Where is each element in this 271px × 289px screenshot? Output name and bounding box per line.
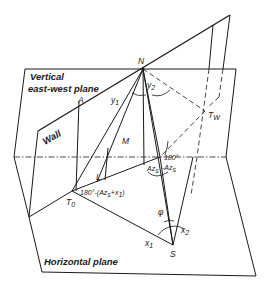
label-wall: Wall bbox=[41, 127, 64, 146]
angle-180-minus-az-line1: 180° bbox=[164, 154, 179, 161]
label-east-west-plane: east-west plane bbox=[28, 83, 99, 94]
angle-az-s: Azs bbox=[146, 165, 159, 174]
angle-t0: 180°-(Azs+x1) bbox=[80, 189, 125, 198]
point-S: S bbox=[170, 249, 176, 259]
angle-x2: x2 bbox=[180, 225, 189, 236]
point-N-dot bbox=[142, 68, 145, 71]
label-vertical: Vertical bbox=[30, 71, 64, 82]
angle-y2: y2 bbox=[146, 80, 155, 91]
label-horizontal-plane: Horizontal plane bbox=[44, 256, 119, 267]
angle-phi: φ bbox=[158, 207, 164, 217]
point-T0: T0 bbox=[66, 197, 75, 208]
point-M: M bbox=[122, 136, 130, 146]
wall-plane bbox=[29, 15, 230, 217]
point-N: N bbox=[138, 56, 145, 66]
point-A: A bbox=[77, 95, 84, 105]
point-L: L bbox=[96, 172, 101, 182]
point-Tw: TW bbox=[208, 110, 221, 121]
solar-geometry-diagram: Vertical east-west plane Wall Horizontal… bbox=[0, 0, 271, 289]
angle-x1: x1 bbox=[144, 238, 153, 249]
angle-y1: y1 bbox=[110, 95, 119, 106]
line-T0-M bbox=[72, 157, 160, 191]
line-A-T0 bbox=[76, 101, 79, 191]
line-T0-S bbox=[72, 191, 173, 245]
angle-180-minus-az-line2: -Azs bbox=[162, 164, 177, 173]
